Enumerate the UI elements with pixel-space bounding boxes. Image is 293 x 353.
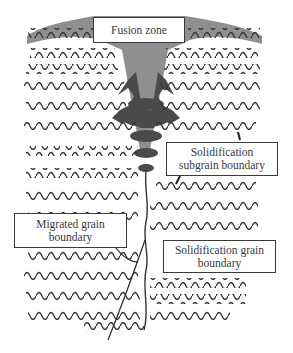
solidification-grain-boundary-line	[144, 170, 147, 330]
migrated-boundary-text-line2: boundary	[49, 231, 92, 244]
solidification-grain-boundary-label: Solidification grain boundary	[163, 240, 276, 273]
migrated-grain-boundary-label: Migrated grain boundary	[14, 213, 127, 248]
weld-solidification-diagram	[0, 0, 293, 353]
subgrain-waves-left	[24, 28, 144, 332]
fusion-zone-text: Fusion zone	[111, 24, 167, 37]
subgrain-boundary-leader-top	[238, 132, 240, 140]
subgrain-boundary-text-line2: subgrain boundary	[179, 159, 265, 172]
grain-boundary-text-line1: Solidification grain	[175, 244, 264, 257]
grain-boundary-text-line2: boundary	[198, 257, 241, 270]
migrated-boundary-text-line1: Migrated grain	[36, 218, 105, 231]
subgrain-boundary-label: Solidification subgrain boundary	[166, 142, 278, 176]
fusion-zone-label: Fusion zone	[93, 17, 185, 43]
subgrain-boundary-text-line1: Solidification	[191, 146, 254, 159]
